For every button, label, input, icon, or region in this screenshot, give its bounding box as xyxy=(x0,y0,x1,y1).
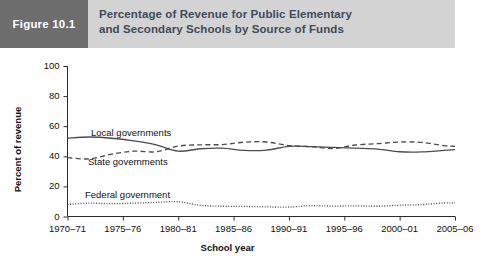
x-axis-tick-label: 2005–06 xyxy=(425,223,485,234)
figure-header-band: Figure 10.1 Percentage of Revenue for Pu… xyxy=(0,0,455,48)
series-line-local-governments xyxy=(68,137,456,152)
y-axis-title: Percent of revenue xyxy=(12,95,23,205)
figure-container: Figure 10.1 Percentage of Revenue for Pu… xyxy=(0,0,487,274)
figure-number-label: Figure 10.1 xyxy=(13,18,76,30)
x-axis-ticks xyxy=(68,217,456,221)
x-axis-title: School year xyxy=(0,242,455,253)
series-label-federal-government: Federal government xyxy=(85,189,170,200)
series-label-state-governments: State governments xyxy=(88,156,168,167)
figure-title-line-1: Percentage of Revenue for Public Element… xyxy=(99,7,449,22)
x-axis-tick-label: 1975–76 xyxy=(93,223,153,234)
y-axis-tick-label: 40 xyxy=(26,150,60,161)
x-axis-tick-label: 2000–01 xyxy=(370,223,430,234)
figure-title-line-2: and Secondary Schools by Source of Funds xyxy=(99,22,449,37)
y-axis-tick-label: 60 xyxy=(26,120,60,131)
x-axis-tick-label: 1970–71 xyxy=(38,223,98,234)
y-axis-tick-label: 20 xyxy=(26,180,60,191)
series-label-local-governments: Local governments xyxy=(91,127,171,138)
y-axis-ticks xyxy=(64,67,68,218)
figure-title: Percentage of Revenue for Public Element… xyxy=(99,7,449,37)
series-line-federal-government xyxy=(68,202,456,207)
x-axis-tick-label: 1995–96 xyxy=(314,223,374,234)
y-axis-tick-label: 80 xyxy=(26,90,60,101)
figure-number-badge: Figure 10.1 xyxy=(0,0,88,48)
chart-svg xyxy=(0,48,487,274)
y-axis-tick-label: 100 xyxy=(26,60,60,71)
x-axis-tick-label: 1980–81 xyxy=(148,223,208,234)
x-axis-tick-label: 1990–91 xyxy=(259,223,319,234)
x-axis-tick-label: 1985–86 xyxy=(204,223,264,234)
y-axis-tick-label: 0 xyxy=(26,211,60,222)
chart-plot-region: 020406080100 1970–711975–761980–811985–8… xyxy=(0,48,487,274)
